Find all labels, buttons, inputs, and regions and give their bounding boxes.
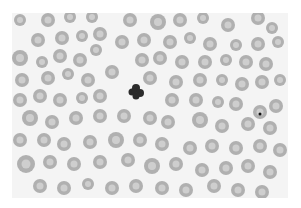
red-blood-cell-pallor [183,187,190,194]
red-blood-cell-pallor [73,115,80,122]
red-blood-cell-pallor [255,41,262,48]
red-blood-cell-pallor [243,59,250,66]
red-blood-cell-pallor [233,101,240,108]
red-blood-cell-pallor [97,31,104,38]
red-blood-cell-pallor [257,143,264,150]
blood-smear-micrograph [12,13,288,198]
red-blood-cell-pallor [45,75,52,82]
red-blood-cell-pallor [167,39,174,46]
red-blood-cell-pallor [165,119,172,126]
red-blood-cell-pallor [259,79,266,86]
red-blood-cell-pallor [157,55,164,62]
red-blood-cell-pallor [19,77,26,84]
red-blood-cell-pallor [207,41,214,48]
red-blood-cell-pallor [219,77,225,83]
red-blood-cell-pallor [193,97,200,104]
red-blood-cell-pallor [225,22,232,29]
red-blood-cell-pallor [121,113,128,120]
red-blood-cell-pallor [49,119,56,126]
red-blood-cell-pallor [147,75,154,82]
red-blood-cell-pallor [277,147,284,154]
red-blood-cell-pallor [267,169,274,176]
red-blood-cell-pallor [139,57,146,64]
red-blood-cell-pallor [16,54,24,62]
red-blood-cell-pallor [148,162,156,170]
red-blood-cell-pallor [259,189,266,196]
red-blood-cell-pallor [197,77,204,84]
red-blood-cell-pallor [93,47,99,53]
red-blood-cell-pallor [97,159,104,166]
red-blood-cell-pallor [22,160,31,169]
inclusion-body [259,113,262,116]
red-blood-cell-pallor [89,14,95,20]
red-blood-cell-pallor [45,17,52,24]
red-blood-cell-pallor [141,37,148,44]
red-blood-cell-pallor [199,167,206,174]
red-blood-cell-pallor [219,123,226,130]
red-blood-cell-pallor [37,183,44,190]
red-blood-cell-pallor [39,59,45,65]
red-blood-cell-pallor [137,137,144,144]
red-blood-cell-pallor [147,115,154,122]
red-blood-cell-pallor [209,143,216,150]
red-blood-cell-pallor [17,97,24,104]
red-blood-cell-pallor [277,77,283,83]
red-blood-cell-pallor [59,35,66,42]
red-blood-cell-pallor [125,157,132,164]
red-blood-cell-pallor [263,61,270,68]
red-blood-cell-pallor [85,77,92,84]
red-blood-cell-pallor [187,145,194,152]
red-blood-cell-pallor [17,17,23,23]
red-blood-cell-pallor [273,103,280,110]
red-blood-cell-pallor [85,181,91,187]
red-blood-cell-pallor [173,79,180,86]
red-blood-cell-pallor [233,42,239,48]
red-blood-cell-pallor [187,35,193,41]
red-blood-cell-pallor [112,136,120,144]
red-blood-cell-pallor [269,25,275,31]
red-blood-cell-pallor [211,183,218,190]
red-blood-cell-pallor [97,93,104,100]
red-blood-cell-pallor [97,113,104,120]
red-blood-cell-pallor [127,17,134,24]
red-blood-cell-pallor [235,187,242,194]
red-blood-cell-pallor [202,59,209,66]
red-blood-cell-pallor [17,137,24,144]
red-blood-cell-pallor [47,159,54,166]
red-blood-cell-pallor [79,95,85,101]
red-blood-cell-pallor [223,57,229,63]
red-blood-cell-pallor [67,14,73,20]
red-blood-cell-pallor [119,39,126,46]
red-blood-cell-pallor [233,145,240,152]
micrograph-canvas [12,13,288,198]
red-blood-cell-pallor [87,139,94,146]
red-blood-cell-pallor [200,15,206,21]
red-blood-cell-pallor [77,57,84,64]
red-blood-cell-pallor [245,121,252,128]
red-blood-cell-pallor [57,53,64,60]
red-blood-cell-pallor [37,93,44,100]
red-blood-cell-pallor [133,183,140,190]
red-blood-cell-pallor [196,116,204,124]
red-blood-cell-pallor [255,15,262,22]
red-blood-cell-pallor [159,185,166,192]
red-blood-cell-pallor [275,39,281,45]
red-blood-cell-pallor [215,99,221,105]
red-blood-cell-pallor [57,97,64,104]
red-blood-cell-pallor [177,17,184,24]
red-blood-cell-pallor [245,163,252,170]
neutrophil-lobe [131,88,137,94]
red-blood-cell-pallor [35,37,42,44]
red-blood-cell-pallor [65,71,71,77]
red-blood-cell-pallor [159,141,166,148]
red-blood-cell-pallor [61,141,68,148]
red-blood-cell-pallor [41,137,48,144]
red-blood-cell-pallor [71,161,78,168]
red-blood-cell-pallor [169,97,176,104]
red-blood-cell-pallor [79,33,85,39]
red-blood-cell-pallor [267,125,274,132]
red-blood-cell-pallor [61,185,68,192]
red-blood-cell-pallor [26,114,34,122]
red-blood-cell-pallor [154,18,162,26]
red-blood-cell-pallor [109,69,116,76]
